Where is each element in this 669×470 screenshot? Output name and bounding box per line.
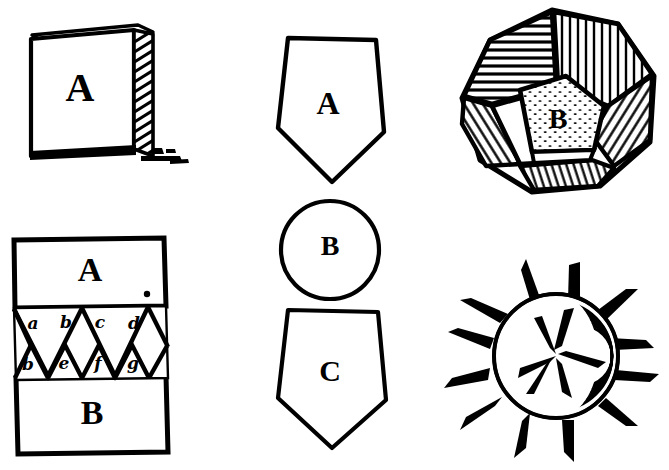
figure-interlocking-wedges: A B <box>2 228 192 466</box>
stack-pentagon-a-label: A <box>316 85 339 121</box>
dodeca-face-center-shadow-edge <box>532 150 594 163</box>
figure-spiked-sphere <box>438 250 669 470</box>
wedge-teeth: a b c d b e f g <box>14 306 168 380</box>
wedge-label-upper-3: d <box>128 313 140 333</box>
wedge-upper-block: A <box>14 238 166 308</box>
figure-pentagon-circle-stack: A B C <box>236 10 426 460</box>
wedge-label-lower-3: g <box>127 353 139 373</box>
wedge-label-upper-0: a <box>27 313 38 333</box>
stack-pentagon-c: C <box>278 310 386 448</box>
wedge-label-lower-0: b <box>22 354 34 374</box>
wedge-label-lower-1: e <box>59 353 70 373</box>
block-label: A <box>66 65 95 110</box>
stack-pentagon-c-label: C <box>319 354 341 387</box>
wedge-lower-block: B <box>16 376 168 454</box>
stack-circle-b: B <box>281 201 379 299</box>
stack-circle-b-label: B <box>321 230 340 261</box>
wedge-label-upper-2: c <box>95 312 106 332</box>
dodeca-label: B <box>549 103 568 134</box>
stack-pentagon-a: A <box>278 38 384 182</box>
woodcut-plate: A A B <box>0 0 669 470</box>
wedge-upper-block-label: A <box>78 251 103 288</box>
figure-cube-block: A <box>20 8 220 188</box>
wedge-reference-dot <box>144 291 150 297</box>
wedge-label-upper-1: b <box>60 312 72 332</box>
wedge-lower-block-label: B <box>81 394 104 431</box>
figure-dodecahedron: B <box>448 0 669 212</box>
